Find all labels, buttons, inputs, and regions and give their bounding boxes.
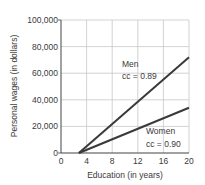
men-label: Men xyxy=(122,59,139,69)
y-tick-label: 40,000 xyxy=(32,95,58,105)
women-label: Women xyxy=(146,126,175,136)
x-tick-label: 12 xyxy=(133,156,143,166)
x-tick-label: 8 xyxy=(110,156,115,166)
x-axis-label: Education (in years) xyxy=(87,170,163,180)
women-cc-label: cc = 0.90 xyxy=(146,139,181,149)
y-tick-label: 0 xyxy=(53,148,58,158)
y-axis-label: Personal wages (in dollars) xyxy=(9,35,19,138)
x-tick-label: 4 xyxy=(84,156,89,166)
x-tick-label: 0 xyxy=(59,156,64,166)
x-tick-labels: 048121620 xyxy=(59,156,194,166)
y-tick-label: 20,000 xyxy=(32,121,58,131)
x-tick-label: 16 xyxy=(159,156,169,166)
y-tick-label: 80,000 xyxy=(32,42,58,52)
men-cc-label: cc = 0.89 xyxy=(122,71,157,81)
y-tick-label: 60,000 xyxy=(32,68,58,78)
x-tick-label: 20 xyxy=(184,156,194,166)
y-tick-labels: 020,00040,00060,00080,000100,000 xyxy=(27,15,58,158)
wages-education-chart: 048121620 020,00040,00060,00080,000100,0… xyxy=(0,0,205,185)
y-tick-label: 100,000 xyxy=(27,15,58,25)
